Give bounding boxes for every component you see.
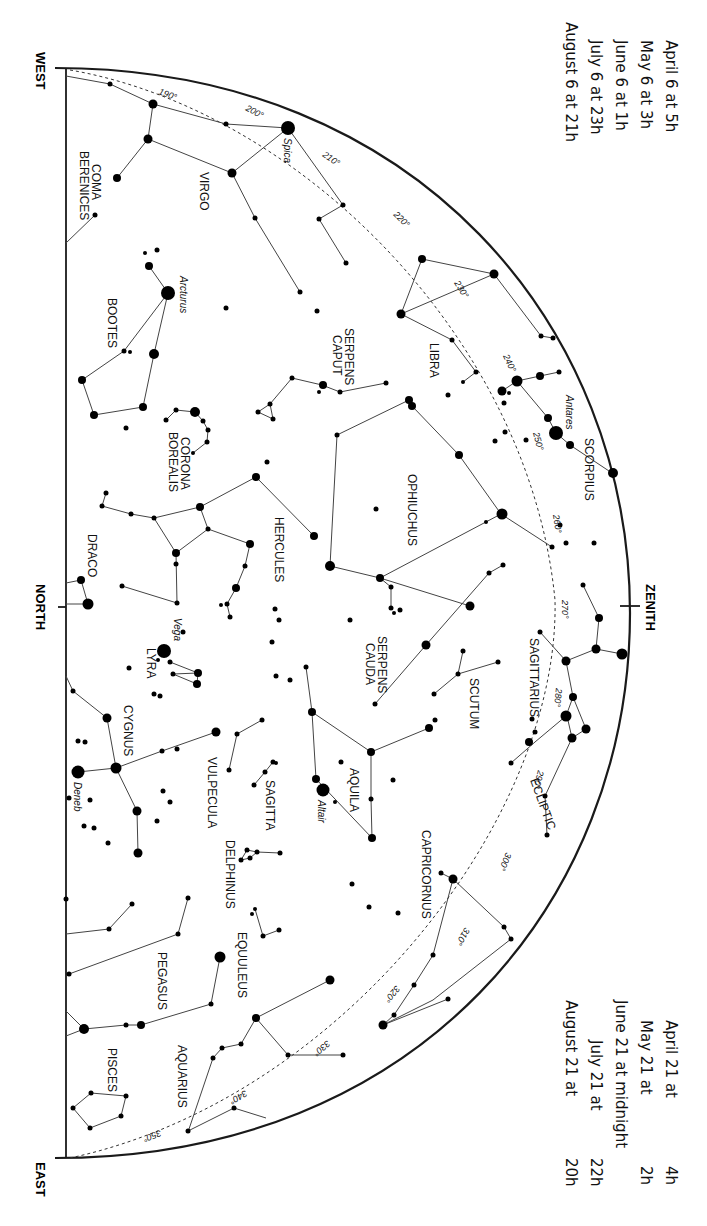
- svg-text:260°: 260°: [551, 513, 564, 534]
- label-vulpecula: VULPECULA: [205, 757, 219, 828]
- label-scutum: SCUTUM: [467, 678, 481, 729]
- label-bootes: BOOTES: [105, 298, 119, 348]
- label-ophiuchus: OPHIUCHUS: [405, 474, 419, 546]
- svg-text:280°: 280°: [552, 687, 564, 708]
- ecliptic-degrees: 190° 200° 210° 220° 230° 240° 250° 260° …: [141, 86, 570, 1144]
- label-pegasus: PEGASUS: [155, 952, 169, 1010]
- label-serpens-caput-2: CAPUT: [330, 335, 344, 376]
- label-hercules: HERCULES: [272, 517, 286, 582]
- label-lyra: LYRA: [144, 648, 158, 678]
- label-altair: Altair: [316, 799, 327, 823]
- antares-star: [549, 426, 563, 440]
- svg-text:210°: 210°: [320, 149, 342, 169]
- date-bottom-3: July 21 at: [587, 1039, 605, 1111]
- svg-text:230°: 230°: [452, 278, 471, 300]
- label-virgo: VIRGO: [197, 172, 211, 211]
- date-bottom-4: August 21 at: [562, 1000, 580, 1096]
- zenith-label: ZENITH: [643, 584, 658, 631]
- west-label: WEST: [33, 52, 48, 90]
- east-label: EAST: [33, 1162, 48, 1197]
- date-top-1: May 6 at 3h: [637, 40, 655, 129]
- altair-star: [317, 784, 330, 797]
- label-deneb: Deneb: [72, 782, 83, 812]
- ecliptic-line: [70, 70, 555, 1158]
- time-bottom-0: 4h: [662, 1166, 680, 1185]
- label-equuleus: EQUULEUS: [235, 932, 249, 998]
- svg-text:190°: 190°: [157, 86, 178, 102]
- svg-text:250°: 250°: [531, 430, 546, 452]
- label-spica: Spica: [282, 138, 293, 163]
- label-sagittarius: SAGITTARIUS: [527, 638, 541, 717]
- label-scorpius: SCORPIUS: [582, 438, 596, 501]
- spica-star: [281, 121, 295, 135]
- svg-text:220°: 220°: [391, 209, 412, 230]
- horizon-arc: [55, 68, 630, 1158]
- label-libra: LIBRA: [427, 343, 441, 378]
- date-bottom-0: April 21 at: [662, 1020, 680, 1098]
- north-label: NORTH: [33, 584, 48, 630]
- label-delphinus: DELPHINUS: [223, 840, 237, 909]
- arcturus-star: [161, 286, 175, 300]
- svg-text:270°: 270°: [560, 599, 570, 619]
- dates-bottom: April 21 at 4h May 21 at 2h June 21 at m…: [562, 999, 680, 1187]
- label-cygnus: CYGNUS: [121, 705, 135, 756]
- label-draco: DRACO: [85, 534, 99, 577]
- star-names: Spica Arcturus Antares Vega Deneb Altair…: [72, 138, 575, 832]
- label-serpens-cauda-2: CAUDA: [363, 643, 377, 685]
- time-bottom-4: 20h: [562, 1158, 580, 1187]
- label-antares: Antares: [564, 394, 575, 429]
- svg-text:200°: 200°: [243, 102, 265, 120]
- date-top-4: August 6 at 21h: [562, 22, 580, 142]
- label-coma-2: BERENICES: [77, 151, 91, 220]
- svg-text:310°: 310°: [454, 926, 472, 947]
- label-aquarius: AQUARIUS: [175, 1045, 189, 1108]
- label-pisces: PISCES: [105, 1048, 119, 1092]
- date-top-2: June 6 at 1h: [612, 39, 630, 131]
- svg-text:240°: 240°: [501, 352, 519, 374]
- label-vega: Vega: [172, 618, 183, 641]
- label-arcturus: Arcturus: [178, 275, 189, 313]
- time-bottom-3: 22h: [587, 1158, 605, 1187]
- date-top-0: April 6 at 5h: [662, 40, 680, 132]
- svg-text:350°: 350°: [141, 1128, 162, 1144]
- date-bottom-2: June 21 at midnight: [612, 999, 630, 1148]
- date-bottom-1: May 21 at: [637, 1020, 655, 1095]
- constellation-labels: COMA BERENICES VIRGO BOOTES SERPENS CAPU…: [77, 151, 596, 1108]
- time-bottom-1: 2h: [637, 1166, 655, 1185]
- vega-star: [157, 644, 171, 658]
- label-sagitta: SAGITTA: [263, 780, 277, 830]
- label-aquila: AQUILA: [347, 768, 361, 812]
- stars: [64, 82, 628, 1134]
- svg-text:300°: 300°: [497, 851, 513, 872]
- label-capricornus: CAPRICORNUS: [419, 830, 433, 919]
- dates-top: April 6 at 5h May 6 at 3h June 6 at 1h J…: [562, 22, 680, 142]
- date-top-3: July 6 at 23h: [587, 39, 605, 135]
- constellation-lines: [66, 76, 622, 1132]
- star-chart: WEST NORTH EAST ZENITH April 6 at 5h May…: [0, 0, 707, 1226]
- label-corona-2: BOREALIS: [166, 432, 180, 492]
- deneb-star: [72, 766, 85, 779]
- svg-text:320°: 320°: [382, 984, 402, 1005]
